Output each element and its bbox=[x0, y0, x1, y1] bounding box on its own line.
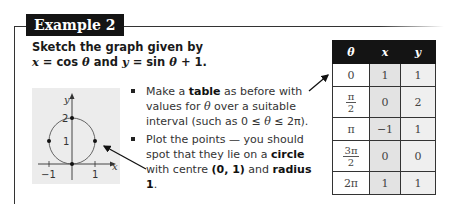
arrow-to-circle-icon bbox=[104, 146, 146, 169]
annotation-arrows bbox=[0, 0, 464, 204]
arrow-to-table-icon bbox=[309, 75, 328, 91]
